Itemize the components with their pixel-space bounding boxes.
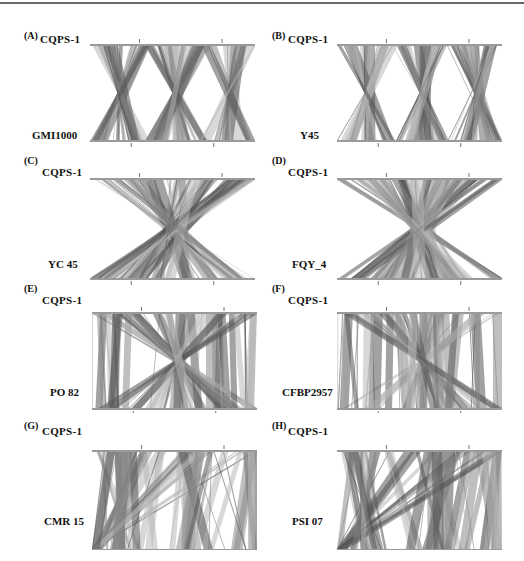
query-genome-bar — [337, 408, 502, 410]
reference-genome-label: CQPS-1 — [40, 33, 80, 45]
query-genome-bar — [337, 140, 502, 142]
query-genome-label: GMI1000 — [32, 129, 77, 141]
reference-genome-label: CQPS-1 — [42, 294, 82, 306]
synteny-plot-e — [0, 283, 262, 413]
synteny-link — [92, 314, 93, 408]
reference-genome-label: CQPS-1 — [288, 166, 328, 178]
synteny-plot-c — [0, 155, 262, 285]
synteny-link — [475, 314, 479, 408]
panel-letter: (E) — [24, 283, 37, 294]
panel-letter: (C) — [24, 155, 38, 166]
top-rule — [0, 2, 524, 4]
panel-a: (A) CQPS-1 GMI1000 — [0, 30, 262, 160]
reference-genome-label: CQPS-1 — [288, 425, 328, 437]
panel-letter: (B) — [272, 30, 285, 41]
reference-genome-bar — [337, 44, 502, 46]
query-genome-bar — [90, 140, 255, 142]
query-genome-label: CMR 15 — [44, 515, 84, 527]
reference-genome-bar — [337, 450, 502, 452]
reference-genome-label: CQPS-1 — [288, 294, 328, 306]
query-genome-label: PSI 07 — [292, 515, 323, 527]
reference-genome-bar — [90, 44, 255, 46]
panel-c: (C) CQPS-1 YC 45 — [0, 155, 262, 285]
panel-f: (F) CQPS-1 CFBP2957 — [262, 283, 524, 413]
synteny-link — [248, 452, 255, 549]
panel-b: (B) CQPS-1 Y45 — [262, 30, 524, 160]
query-genome-label: Y45 — [300, 129, 319, 141]
panel-letter: (G) — [24, 420, 38, 431]
query-genome-bar — [90, 278, 255, 280]
reference-genome-label: CQPS-1 — [42, 166, 82, 178]
synteny-plot-h — [262, 420, 524, 550]
panel-e: (E) CQPS-1 PO 82 — [0, 283, 262, 413]
reference-genome-label: CQPS-1 — [42, 425, 82, 437]
query-genome-label: CFBP2957 — [282, 386, 333, 398]
query-genome-bar — [337, 549, 502, 550]
panel-letter: (D) — [272, 155, 286, 166]
query-genome-label: FQY_4 — [292, 258, 326, 270]
query-genome-label: PO 82 — [50, 386, 79, 398]
reference-genome-bar — [337, 178, 502, 180]
panel-letter: (F) — [272, 283, 285, 294]
reference-genome-bar — [90, 178, 255, 180]
reference-genome-bar — [92, 312, 257, 314]
reference-genome-label: CQPS-1 — [288, 33, 328, 45]
reference-genome-bar — [337, 312, 502, 314]
query-genome-label: YC 45 — [48, 258, 78, 270]
query-genome-bar — [92, 408, 257, 410]
panel-h: (H) CQPS-1 PSI 07 — [262, 420, 524, 550]
synteny-link — [432, 452, 444, 549]
synteny-plot-g — [0, 420, 262, 550]
panel-letter: (A) — [24, 30, 38, 41]
panel-d: (D) CQPS-1 FQY_4 — [262, 155, 524, 285]
query-genome-bar — [92, 549, 257, 550]
panel-letter: (H) — [272, 420, 286, 431]
reference-genome-bar — [92, 450, 257, 452]
panel-g: (G) CQPS-1 CMR 15 — [0, 420, 262, 550]
synteny-link — [433, 314, 444, 408]
query-genome-bar — [337, 278, 502, 280]
